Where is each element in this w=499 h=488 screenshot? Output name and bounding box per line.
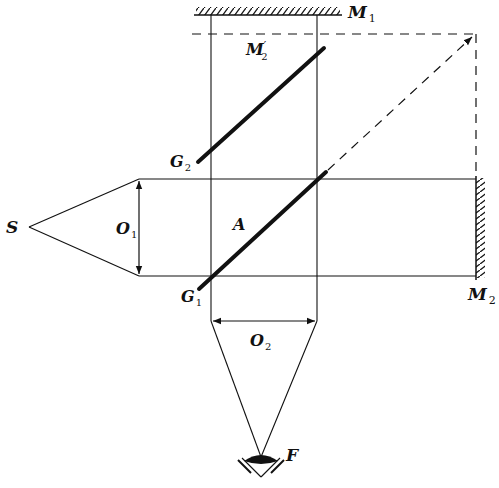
plate-g2 [198, 48, 324, 162]
horizontal-beam [139, 179, 476, 276]
label-eye: F [285, 445, 300, 465]
label-m1: M1 [347, 2, 376, 25]
label-o1: O1 [116, 219, 137, 240]
plate-g1 [199, 172, 326, 289]
virtual-path [192, 34, 476, 176]
label-m2: M2 [467, 284, 496, 307]
eye-icon [238, 455, 284, 477]
label-source: S [6, 217, 18, 237]
interferometer-diagram: M1 S O1 M2 M′2 G2 A G1 O2 [0, 0, 499, 488]
mirror-m2 [476, 176, 485, 280]
label-o2: O2 [250, 331, 271, 352]
mirror-m1 [194, 7, 342, 15]
label-m2-prime: M′2 [245, 39, 268, 62]
label-g2: G2 [170, 152, 191, 173]
label-a: A [231, 215, 245, 234]
